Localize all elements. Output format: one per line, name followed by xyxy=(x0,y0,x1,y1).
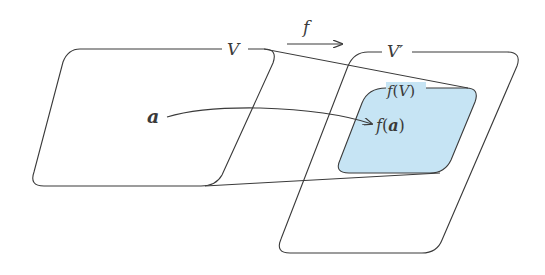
codomain-label: V′ xyxy=(387,41,403,61)
map-label: f xyxy=(301,17,312,37)
diagram-canvas: f V V′ f(V) a f(a) xyxy=(0,0,545,275)
upper-connector-line xyxy=(264,49,468,88)
point-label: a xyxy=(147,105,159,127)
image-set-region xyxy=(338,88,476,173)
function-mapping-diagram: f V V′ f(V) a f(a) xyxy=(0,0,545,275)
image-point-label-close: ) xyxy=(399,116,405,135)
image-set-label-close: ) xyxy=(409,82,415,100)
image-point-label-arg: a xyxy=(388,116,398,135)
domain-label: V xyxy=(227,39,241,59)
image-set-label: f(V) xyxy=(386,82,415,100)
point-mapping-arrow xyxy=(167,108,372,124)
image-point-label: f(a) xyxy=(375,116,405,135)
lower-connector-line xyxy=(205,173,440,186)
